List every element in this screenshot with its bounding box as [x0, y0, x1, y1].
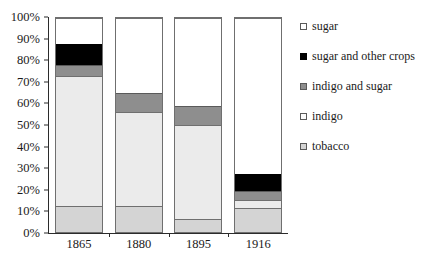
legend-item[interactable]: tobacco	[300, 140, 349, 152]
y-axis: 0%10%20%30%40%50%60%70%80%90%100%	[0, 11, 44, 233]
legend-item-label: sugar and other crops	[312, 50, 415, 62]
plot-area	[49, 17, 288, 233]
bar-column[interactable]	[174, 17, 222, 233]
swatch-indigo-icon	[300, 113, 307, 120]
bar-stack	[115, 17, 163, 233]
swatch-tobacco-icon	[300, 143, 307, 150]
y-axis-tick-label: 30%	[17, 162, 40, 175]
y-axis-tick-mark	[44, 125, 48, 126]
legend-item[interactable]: sugar and other crops	[300, 50, 415, 62]
y-axis-tick-label: 60%	[17, 97, 40, 110]
bar-segment-indigo-and-sugar[interactable]	[235, 191, 281, 200]
y-axis-tick-mark	[44, 146, 48, 147]
bar-segment-sugar-and-other-crops[interactable]	[56, 44, 102, 65]
x-axis-tick-label: 1916	[228, 238, 288, 251]
bar-segment-tobacco[interactable]	[235, 208, 281, 232]
bar-column[interactable]	[115, 17, 163, 233]
bar-segment-indigo-and-sugar[interactable]	[116, 93, 162, 112]
bar-segment-indigo[interactable]	[175, 125, 221, 219]
y-axis-tick-label: 40%	[17, 140, 40, 153]
swatch-sugar-and-other-crops-icon	[300, 53, 307, 60]
x-axis-tick-mark	[169, 233, 170, 237]
y-axis-tick-label: 10%	[17, 205, 40, 218]
bar-segment-indigo-and-sugar[interactable]	[175, 106, 221, 125]
legend-item[interactable]: indigo and sugar	[300, 80, 392, 92]
y-axis-tick-mark	[44, 81, 48, 82]
x-axis-tick-label: 1895	[168, 238, 228, 251]
clipped-title-strip	[0, 0, 433, 9]
legend-item-label: tobacco	[312, 140, 349, 152]
swatch-indigo-and-sugar-icon	[300, 83, 307, 90]
y-axis-tick-mark	[44, 233, 48, 234]
bar-column[interactable]	[55, 17, 103, 233]
bar-segment-tobacco[interactable]	[56, 206, 102, 232]
y-axis-tick-label: 100%	[11, 11, 40, 24]
legend-item-label: indigo	[312, 110, 343, 122]
bar-stack	[55, 17, 103, 233]
legend-item-label: sugar	[312, 20, 338, 32]
bar-segment-sugar-and-other-crops[interactable]	[235, 174, 281, 191]
bar-segment-sugar[interactable]	[56, 18, 102, 44]
bar-stack	[234, 17, 282, 233]
bar-segment-tobacco[interactable]	[116, 206, 162, 232]
y-axis-tick-label: 90%	[17, 32, 40, 45]
bar-segment-sugar[interactable]	[235, 18, 281, 174]
y-axis-tick-mark	[44, 189, 48, 190]
y-axis-tick-mark	[44, 38, 48, 39]
bar-segment-indigo[interactable]	[235, 200, 281, 209]
x-axis-tick-mark	[228, 233, 229, 237]
y-axis-tick-mark	[44, 168, 48, 169]
x-axis-tick-label: 1880	[109, 238, 169, 251]
x-axis-tick-mark	[109, 233, 110, 237]
bar-segment-indigo[interactable]	[56, 76, 102, 207]
x-axis-tick-label: 1865	[49, 238, 109, 251]
y-axis-tick-label: 70%	[17, 76, 40, 89]
y-axis-tick-label: 80%	[17, 54, 40, 67]
y-axis-tick-label: 50%	[17, 119, 40, 132]
x-axis: 1865188018951916	[49, 238, 288, 260]
bar-segment-sugar[interactable]	[175, 18, 221, 106]
y-axis-tick-mark	[44, 211, 48, 212]
bar-segment-indigo-and-sugar[interactable]	[56, 65, 102, 76]
bar-segment-indigo[interactable]	[116, 112, 162, 206]
legend-item-label: indigo and sugar	[312, 80, 392, 92]
y-axis-tick-mark	[44, 17, 48, 18]
bar-column[interactable]	[234, 17, 282, 233]
legend-item[interactable]: sugar	[300, 20, 338, 32]
y-axis-tick-label: 0%	[23, 227, 40, 240]
bar-stack	[174, 17, 222, 233]
stacked-bar-chart: 0%10%20%30%40%50%60%70%80%90%100% 186518…	[0, 0, 433, 270]
y-axis-tick-mark	[44, 60, 48, 61]
y-axis-tick-mark	[44, 103, 48, 104]
bar-segment-sugar[interactable]	[116, 18, 162, 93]
swatch-sugar-icon	[300, 23, 307, 30]
legend-item[interactable]: indigo	[300, 110, 343, 122]
bar-segment-tobacco[interactable]	[175, 219, 221, 232]
y-axis-tick-label: 20%	[17, 184, 40, 197]
